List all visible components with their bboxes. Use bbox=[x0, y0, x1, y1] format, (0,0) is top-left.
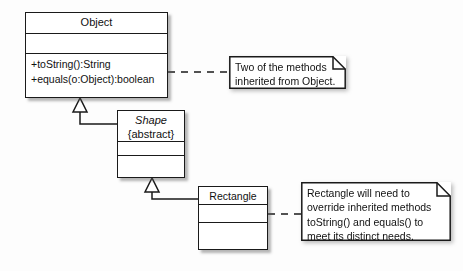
note-text-2: Rectangle will need to override inherite… bbox=[301, 182, 451, 244]
class-operations-compartment-object: +toString():String +equals(o:Object):boo… bbox=[26, 54, 167, 97]
class-operation-object-2: +equals(o:Object):boolean bbox=[26, 72, 167, 89]
class-name-compartment-object: Object bbox=[26, 13, 167, 34]
class-name-compartment-shape: Shape {abstract} bbox=[118, 111, 184, 142]
class-attributes-compartment-shape bbox=[118, 142, 184, 156]
class-name-compartment-rectangle: Rectangle bbox=[199, 187, 267, 205]
class-attributes-compartment-object bbox=[26, 34, 167, 54]
class-name-object: Object bbox=[26, 13, 167, 30]
class-name-rectangle: Rectangle bbox=[199, 187, 267, 203]
note-rectangle-override[interactable]: Rectangle will need to override inherite… bbox=[301, 182, 451, 241]
class-box-rectangle[interactable]: Rectangle bbox=[198, 186, 268, 250]
class-operation-object-1: +toString():String bbox=[26, 54, 167, 72]
class-box-shape[interactable]: Shape {abstract} bbox=[117, 110, 185, 178]
note-text-1: Two of the methods inherited from Object… bbox=[229, 56, 346, 89]
generalization-shape-to-object bbox=[73, 98, 117, 124]
class-name-shape: Shape bbox=[118, 111, 184, 128]
uml-class-diagram: Object +toString():String +equals(o:Obje… bbox=[0, 0, 463, 271]
class-operations-compartment-rectangle bbox=[199, 223, 267, 248]
class-attributes-compartment-rectangle bbox=[199, 205, 267, 223]
note-object-methods[interactable]: Two of the methods inherited from Object… bbox=[229, 56, 346, 89]
generalization-rectangle-to-shape bbox=[145, 178, 198, 199]
class-abstract-marker-shape: {abstract} bbox=[118, 128, 184, 142]
class-operations-compartment-shape bbox=[118, 156, 184, 177]
class-box-object[interactable]: Object +toString():String +equals(o:Obje… bbox=[25, 12, 168, 98]
